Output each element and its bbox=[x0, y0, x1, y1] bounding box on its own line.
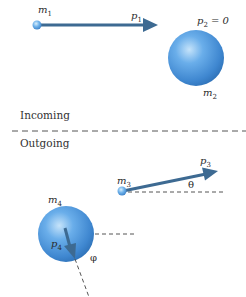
label-m4: m4 bbox=[48, 195, 62, 209]
label-p2-zero: p2 = 0 bbox=[197, 16, 229, 30]
p4-direction-dashed-line bbox=[75, 259, 89, 297]
outgoing-section-label: Outgoing bbox=[20, 137, 69, 149]
label-m1: m1 bbox=[38, 5, 52, 19]
angle-phi: φ bbox=[90, 253, 97, 263]
label-m2: m2 bbox=[203, 88, 217, 102]
particle-m2 bbox=[168, 30, 224, 86]
label-p3: p3 bbox=[200, 156, 211, 170]
angle-theta: θ bbox=[188, 180, 194, 190]
label-p1: p1 bbox=[131, 11, 142, 25]
incoming-section-label: Incoming bbox=[20, 109, 70, 121]
outgoing-p3-arrow bbox=[123, 168, 218, 192]
label-m3: m3 bbox=[117, 176, 131, 190]
label-p4: p4 bbox=[51, 239, 62, 253]
particle-m1 bbox=[33, 21, 42, 30]
